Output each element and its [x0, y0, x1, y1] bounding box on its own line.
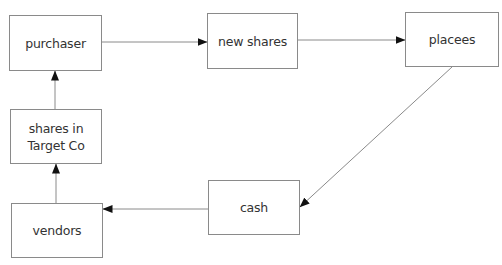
- node-purchaser: purchaser: [9, 15, 102, 71]
- node-label-shares-in-target-co: shares in Target Co: [27, 120, 84, 154]
- node-label-vendors: vendors: [33, 222, 82, 239]
- node-shares-in-target-co: shares in Target Co: [10, 109, 102, 164]
- node-cash: cash: [208, 180, 300, 235]
- node-label-purchaser: purchaser: [25, 35, 86, 52]
- node-placees: placees: [405, 12, 499, 67]
- node-label-placees: placees: [429, 31, 475, 48]
- arrow-placees-to-cash: [300, 67, 452, 207]
- node-new-shares: new shares: [207, 13, 298, 69]
- node-label-new-shares: new shares: [218, 33, 287, 50]
- flow-diagram: purchaser new shares placees shares in T…: [0, 0, 502, 265]
- node-vendors: vendors: [11, 203, 103, 258]
- node-label-cash: cash: [240, 199, 268, 216]
